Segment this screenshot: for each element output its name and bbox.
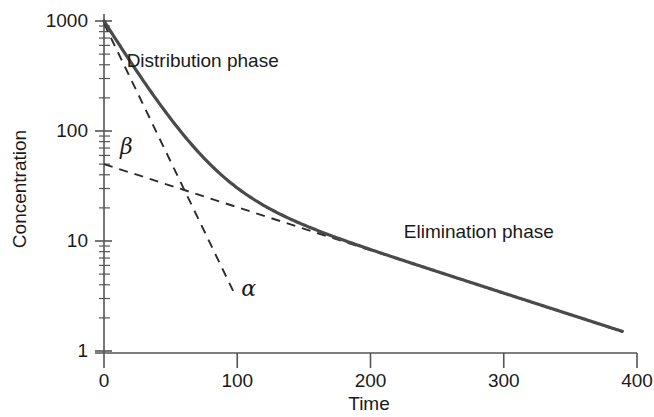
alpha-symbol: α <box>241 276 256 301</box>
x-tick-label: 200 <box>321 370 421 392</box>
beta-symbol: β <box>120 134 133 159</box>
y-tick-label: 100 <box>0 120 88 142</box>
y-tick-label: 1000 <box>0 10 88 32</box>
y-tick-label: 10 <box>0 230 88 252</box>
y-tick-label: 1 <box>0 340 88 362</box>
pharmacokinetic-log-linear-chart <box>0 0 654 417</box>
x-tick-label: 400 <box>587 370 654 392</box>
x-tick-label: 300 <box>454 370 554 392</box>
x-tick-label: 0 <box>54 370 154 392</box>
x-axis-title: Time <box>289 393 449 415</box>
x-tick-label: 100 <box>187 370 287 392</box>
chart-background <box>0 0 654 417</box>
distribution-phase-label: Distribution phase <box>127 50 279 72</box>
elimination-phase-label: Elimination phase <box>404 221 554 243</box>
